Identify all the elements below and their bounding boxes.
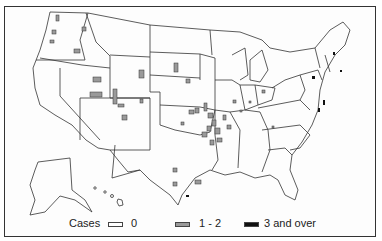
legend-swatch-zero: [108, 222, 123, 227]
legend-label-high: 3 and over: [264, 217, 316, 229]
counties-1-2-cases: [50, 15, 274, 186]
legend-swatch-low: [175, 222, 190, 227]
legend-label-zero: 0: [131, 217, 137, 229]
legend-label-low: 1 - 2: [199, 217, 221, 229]
counties-3-plus-cases: [186, 52, 342, 197]
legend: Cases 0 1 - 2 3 and over: [0, 217, 382, 233]
legend-title: Cases: [69, 217, 100, 229]
legend-swatch-high: [244, 222, 259, 227]
us-county-map: [0, 0, 382, 241]
